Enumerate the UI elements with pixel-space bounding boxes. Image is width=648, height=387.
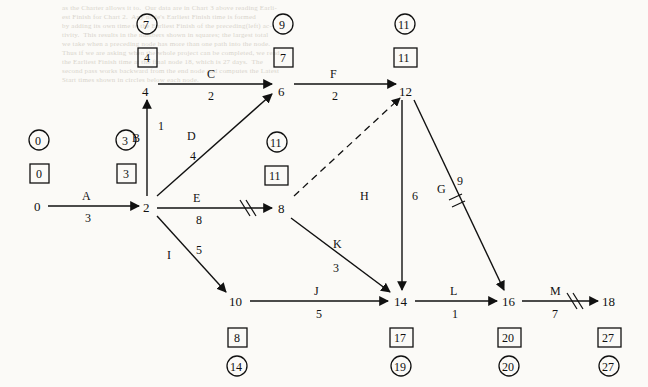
node-6-label: 6 xyxy=(278,84,285,99)
edge-C-duration: 2 xyxy=(208,89,214,103)
node-18-latest: 27 xyxy=(602,360,614,374)
node-6-latest: 9 xyxy=(279,18,285,32)
edge-J-label: J xyxy=(314,284,319,298)
node-18-label: 18 xyxy=(602,294,615,309)
node-18-earliest: 27 xyxy=(602,331,614,345)
edge-C-label: C xyxy=(207,67,215,81)
edge-A-label: A xyxy=(82,189,91,203)
edge-L-duration: 1 xyxy=(452,307,458,321)
edge-J: J 5 xyxy=(250,284,388,321)
edge-C: C 2 xyxy=(158,67,272,103)
node-0-latest: 0 xyxy=(35,134,41,148)
node-4-latest: 7 xyxy=(143,18,149,32)
edge-K-duration: 3 xyxy=(333,261,339,275)
edge-G: G 9 xyxy=(414,100,504,290)
edge-L-label: L xyxy=(450,284,457,298)
node-0-earliest: 0 xyxy=(36,167,42,181)
edge-dummy-dashed xyxy=(294,98,400,196)
edge-K-label: K xyxy=(333,237,342,251)
node-16-earliest: 20 xyxy=(502,331,514,345)
edge-D: D 4 xyxy=(157,94,272,196)
edge-H-label: H xyxy=(360,189,369,203)
node-12-label: 12 xyxy=(399,84,412,99)
node-10-label: 10 xyxy=(229,294,242,309)
node-0: 0 0 0 xyxy=(29,130,49,214)
edge-B: B 1 xyxy=(132,100,164,196)
node-16-latest: 20 xyxy=(502,360,514,374)
node-8-label: 8 xyxy=(278,201,285,216)
node-8-earliest: 11 xyxy=(269,169,281,183)
edge-D-label: D xyxy=(187,129,196,143)
node-8-latest: 11 xyxy=(270,136,282,150)
node-18: 18 27 27 xyxy=(598,294,621,376)
edge-B-duration: 1 xyxy=(158,119,164,133)
node-14: 14 17 19 xyxy=(390,294,413,376)
node-0-label: 0 xyxy=(34,199,41,214)
node-4-label: 4 xyxy=(142,84,149,99)
edge-I-duration: 5 xyxy=(196,243,202,257)
edge-H-duration: 6 xyxy=(412,189,418,203)
edge-E-duration: 8 xyxy=(196,213,202,227)
node-12-latest: 11 xyxy=(398,18,410,32)
network-diagram-page: as the Charter allows it to. Our data ar… xyxy=(0,0,648,387)
edge-E: E 8 xyxy=(157,191,272,227)
edge-G-duration: 9 xyxy=(457,174,463,188)
node-2-earliest: 3 xyxy=(123,167,129,181)
edge-K: K 3 xyxy=(291,218,390,292)
node-14-earliest: 17 xyxy=(394,331,406,345)
edge-L: L 1 xyxy=(415,284,497,321)
network-diagram-svg: A 3 B 1 C 2 D 4 E 8 xyxy=(0,0,648,387)
edge-J-duration: 5 xyxy=(316,307,322,321)
node-10-latest: 14 xyxy=(230,360,242,374)
node-16: 16 20 20 xyxy=(498,294,521,376)
node-2-latest: 3 xyxy=(122,134,128,148)
node-6-earliest: 7 xyxy=(280,51,286,65)
node-12: 12 11 11 xyxy=(394,14,417,99)
edge-D-duration: 4 xyxy=(190,149,196,163)
edge-F-duration: 2 xyxy=(332,89,338,103)
node-2-label: 2 xyxy=(143,200,150,215)
node-4: 4 4 7 xyxy=(137,14,157,99)
node-16-label: 16 xyxy=(502,294,516,309)
node-6: 6 7 9 xyxy=(273,14,293,99)
edge-I-label: I xyxy=(167,248,171,262)
node-14-label: 14 xyxy=(394,294,408,309)
edge-M-label: M xyxy=(550,284,561,298)
node-10-earliest: 8 xyxy=(234,331,240,345)
node-10: 10 8 14 xyxy=(227,294,247,376)
edge-H: H 6 xyxy=(360,100,418,290)
edge-F: F 2 xyxy=(294,67,396,103)
node-8: 8 11 11 xyxy=(265,132,288,216)
edge-G-label: G xyxy=(437,182,446,196)
edge-I: I 5 xyxy=(157,216,226,292)
node-14-latest: 19 xyxy=(394,360,406,374)
node-12-earliest: 11 xyxy=(398,51,410,65)
edge-A-duration: 3 xyxy=(85,211,91,225)
node-4-earliest: 4 xyxy=(144,51,150,65)
edge-F-label: F xyxy=(330,67,337,81)
edge-M-duration: 7 xyxy=(552,307,558,321)
edge-A: A 3 xyxy=(48,189,139,225)
edge-M: M 7 xyxy=(522,284,598,321)
edge-E-label: E xyxy=(193,191,200,205)
